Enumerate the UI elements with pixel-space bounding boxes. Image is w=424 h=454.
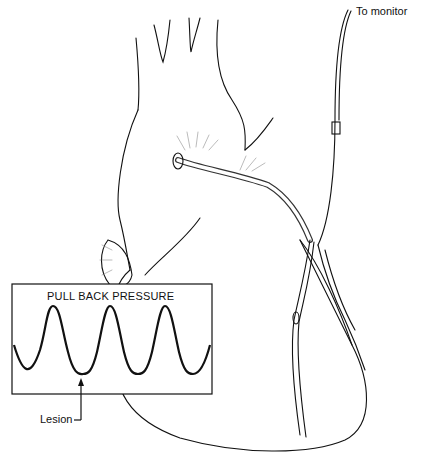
to-monitor-label: To monitor [356,5,407,17]
vessel-top-2 [189,18,200,52]
aorta-left [118,110,138,270]
vessel-right [217,20,245,150]
vessel-top-1 [154,20,170,62]
monitor-line [318,10,348,245]
inset-title: PULL BACK PRESSURE [47,290,174,302]
lesion-label: Lesion [40,413,72,425]
heart-illustration [0,0,424,454]
bypass-graft [178,160,310,240]
vessel-left [136,38,139,110]
catheter [293,240,310,435]
